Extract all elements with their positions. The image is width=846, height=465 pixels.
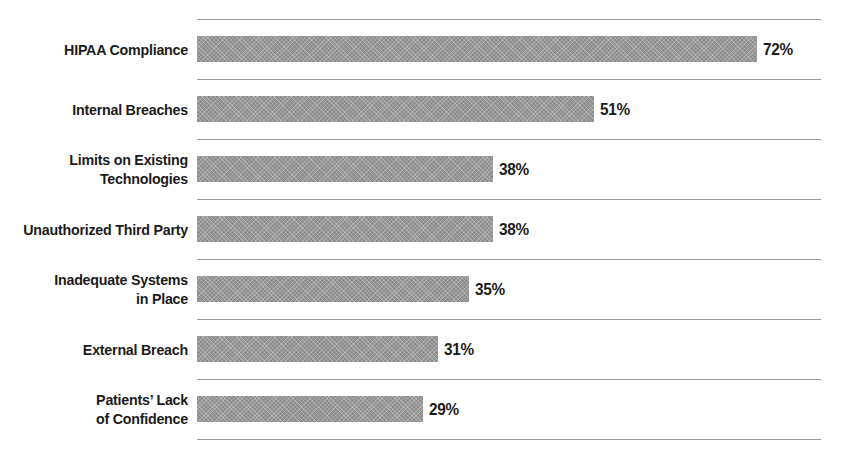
category-label-line: Unauthorized Third Party	[23, 220, 188, 239]
category-label-line: Patients’ Lack	[96, 390, 188, 409]
category-label-line: HIPAA Compliance	[64, 40, 188, 59]
category-label-line: Inadequate Systems	[54, 270, 188, 289]
bar-track: 51%	[197, 79, 846, 139]
bar-value-label: 38%	[499, 156, 529, 182]
bar-track: 31%	[197, 319, 846, 379]
bar-value-label: 72%	[763, 36, 793, 62]
bar-row: Patients’ Lackof Confidence29%	[0, 379, 846, 439]
bar-row: Unauthorized Third Party38%	[0, 199, 846, 259]
bar-row: Internal Breaches51%	[0, 79, 846, 139]
bar	[197, 336, 438, 362]
bar	[197, 396, 423, 422]
category-label-line: in Place	[136, 289, 188, 308]
category-label: Unauthorized Third Party	[15, 199, 188, 259]
plot-area: HIPAA Compliance72%Internal Breaches51%L…	[0, 0, 846, 465]
bar-track: 29%	[197, 379, 846, 439]
bar	[197, 96, 594, 122]
bar	[197, 276, 469, 302]
gridline	[197, 439, 821, 440]
bar	[197, 36, 757, 62]
bar-value-label: 31%	[444, 336, 474, 362]
category-label-line: Internal Breaches	[72, 100, 188, 119]
category-label: Internal Breaches	[15, 79, 188, 139]
bar-track: 38%	[197, 199, 846, 259]
category-label-line: Limits on Existing	[69, 150, 188, 169]
category-label: Limits on ExistingTechnologies	[15, 139, 188, 199]
bar-value-label: 29%	[429, 396, 459, 422]
bar-row: Inadequate Systemsin Place35%	[0, 259, 846, 319]
horizontal-bar-chart: HIPAA Compliance72%Internal Breaches51%L…	[0, 0, 846, 465]
bar-row: Limits on ExistingTechnologies38%	[0, 139, 846, 199]
bar-row: HIPAA Compliance72%	[0, 19, 846, 79]
bar-track: 38%	[197, 139, 846, 199]
category-label-line: External Breach	[83, 340, 188, 359]
bar-value-label: 35%	[475, 276, 505, 302]
category-label: External Breach	[15, 319, 188, 379]
category-label-line: of Confidence	[96, 409, 188, 428]
category-label: Patients’ Lackof Confidence	[15, 379, 188, 439]
bar-track: 72%	[197, 19, 846, 79]
bar-value-label: 38%	[499, 216, 529, 242]
category-label: HIPAA Compliance	[15, 19, 188, 79]
bar	[197, 156, 493, 182]
bar-track: 35%	[197, 259, 846, 319]
category-label-line: Technologies	[100, 169, 188, 188]
bar	[197, 216, 493, 242]
bar-row: External Breach31%	[0, 319, 846, 379]
bar-value-label: 51%	[600, 96, 630, 122]
category-label: Inadequate Systemsin Place	[15, 259, 188, 319]
